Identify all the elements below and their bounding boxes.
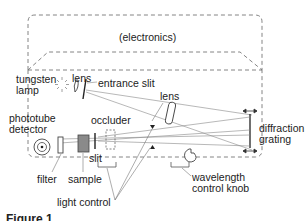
lens-1-label: lens bbox=[72, 72, 91, 84]
light-control-arrow-down-icon bbox=[150, 125, 155, 129]
light-control-label: light control bbox=[57, 196, 111, 208]
lens-2-label: lens bbox=[160, 90, 179, 102]
sample-label: sample bbox=[68, 173, 102, 185]
wavelength-bracket bbox=[171, 162, 189, 167]
light-control-arrow-up-icon bbox=[150, 145, 155, 149]
lens-2-icon bbox=[165, 102, 176, 125]
occluder-label: occluder bbox=[91, 114, 131, 126]
phototube-label-2: detector bbox=[9, 123, 47, 135]
electronics-label: (electronics) bbox=[119, 31, 176, 43]
electronics-shelf bbox=[28, 52, 262, 70]
filter-label: filter bbox=[37, 173, 57, 185]
phototube-detector-icon bbox=[34, 139, 50, 155]
sample-icon bbox=[78, 135, 89, 152]
slit-label: slit bbox=[89, 152, 102, 164]
tungsten-lamp-icon bbox=[55, 77, 69, 92]
diffraction-grating-label-2: grating bbox=[259, 133, 291, 145]
tungsten-lamp-label-2: lamp bbox=[16, 84, 39, 96]
filter-icon bbox=[58, 137, 63, 153]
entrance-slit-label: entrance slit bbox=[98, 77, 155, 89]
figure-caption: Figure 1 bbox=[6, 212, 53, 221]
wavelength-knob-icon bbox=[185, 149, 197, 162]
wavelength-knob-label-2: control knob bbox=[192, 182, 249, 194]
